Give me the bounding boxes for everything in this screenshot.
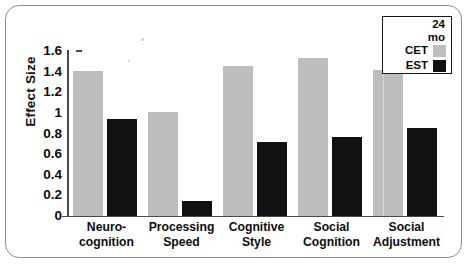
legend-label: EST — [406, 59, 428, 72]
bar-est — [332, 137, 362, 216]
y-tick-label: 0.6 — [14, 144, 62, 164]
bar-cet — [373, 70, 403, 216]
bar-group — [219, 51, 294, 216]
bar-cet — [73, 71, 103, 216]
bar-group — [294, 51, 369, 216]
legend-swatch-est — [433, 60, 446, 72]
x-tick-label: SocialAdjustment — [355, 220, 458, 249]
y-tick-label: 0.4 — [14, 165, 62, 185]
bar-group — [144, 51, 219, 216]
legend-item-est: EST — [406, 59, 446, 72]
y-tick-label: 1 — [14, 103, 62, 123]
legend-swatch-cet — [433, 45, 446, 57]
bar-cet — [148, 112, 178, 216]
bar-est — [182, 201, 212, 216]
legend-item-cet: CET — [405, 44, 446, 57]
y-axis-tick-labels: 1.61.41.210.80.60.40.20 — [14, 41, 62, 225]
bar-est — [257, 142, 287, 216]
chart-figure: Effect Size 1.61.41.210.80.60.40.20 Neur… — [0, 0, 469, 267]
scan-speck — [141, 38, 144, 41]
bar-cet — [298, 58, 328, 216]
bar-est — [107, 119, 137, 216]
y-tick-label: 0.2 — [14, 185, 62, 205]
bar-seam-artifact — [383, 70, 384, 216]
bar-est — [407, 128, 437, 216]
y-tick-label: 1.6 — [14, 41, 62, 61]
y-tick-label: 0.8 — [14, 124, 62, 144]
x-axis-tick-labels: Neuro-cognitionProcessingSpeedCognitiveS… — [62, 220, 447, 262]
chart-legend: 24mo CETEST — [382, 16, 452, 74]
legend-title: 24mo — [428, 18, 445, 43]
y-tick-label: 1.2 — [14, 82, 62, 102]
plot-area — [69, 51, 444, 216]
bar-group — [69, 51, 144, 216]
legend-label: CET — [405, 44, 428, 57]
bar-cet — [223, 66, 253, 216]
bar-group — [369, 51, 444, 216]
y-tick-label: 1.4 — [14, 62, 62, 82]
